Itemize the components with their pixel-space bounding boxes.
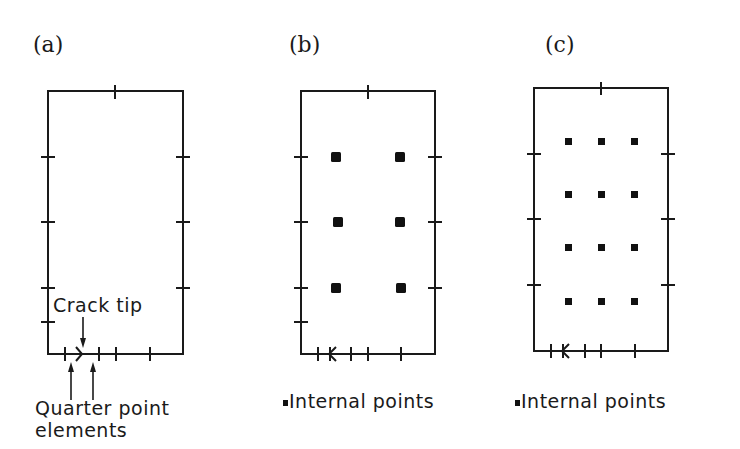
- arrowhead-icon: [90, 362, 96, 372]
- legend-internal-points: Internal points: [521, 390, 666, 412]
- internal-point: [331, 283, 341, 293]
- panel-c-boundary: [534, 88, 668, 351]
- internal-point: [395, 217, 405, 227]
- quarter-point-label-line2: elements: [35, 419, 127, 441]
- panel-b: (b) Internal points: [283, 32, 442, 412]
- legend-marker-icon: [283, 400, 288, 406]
- internal-point: [598, 244, 605, 251]
- internal-points-grid: [565, 138, 638, 305]
- internal-point: [395, 152, 405, 162]
- arrowhead-icon: [68, 362, 74, 372]
- internal-point: [565, 298, 572, 305]
- internal-point: [396, 283, 406, 293]
- panel-c-label: (c): [545, 32, 575, 57]
- internal-point: [331, 152, 341, 162]
- internal-point: [598, 298, 605, 305]
- boundary-element-mesh-diagram: (a) Crack tip Quarter point elements: [0, 0, 740, 449]
- legend-internal-points: Internal points: [289, 390, 434, 412]
- internal-point: [598, 138, 605, 145]
- legend-marker-icon: [515, 400, 520, 406]
- panel-b-label: (b): [289, 32, 320, 57]
- panel-a-label: (a): [33, 32, 63, 57]
- internal-point: [631, 298, 638, 305]
- internal-points-grid: [331, 152, 406, 293]
- panel-c: (c) Internal points: [515, 32, 675, 412]
- internal-point: [631, 138, 638, 145]
- internal-point: [333, 217, 343, 227]
- internal-point: [598, 191, 605, 198]
- quarter-point-label: Quarter point: [35, 397, 169, 419]
- arrowhead-icon: [80, 338, 86, 348]
- internal-point: [631, 244, 638, 251]
- internal-point: [631, 191, 638, 198]
- internal-point: [565, 191, 572, 198]
- internal-point: [565, 138, 572, 145]
- internal-point: [565, 244, 572, 251]
- panel-b-boundary: [301, 91, 435, 354]
- panel-a: (a) Crack tip Quarter point elements: [33, 32, 190, 441]
- crack-tip-label: Crack tip: [53, 294, 143, 316]
